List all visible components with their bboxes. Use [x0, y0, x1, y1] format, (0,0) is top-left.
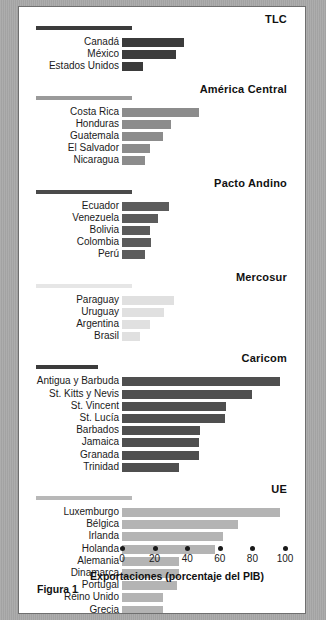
- axis-tick-dot: [185, 546, 190, 551]
- bar-row: St. Kitts y Nevis: [19, 389, 306, 400]
- bar-label: Bélgica: [19, 518, 119, 529]
- bar-row: Bolivia: [19, 225, 306, 236]
- bar-label: Barbados: [19, 424, 119, 435]
- bar-row: Canadá: [19, 37, 306, 48]
- group-header: Pacto Andino: [19, 177, 287, 189]
- bar-label: Irlanda: [19, 530, 119, 541]
- bar-label: Canadá: [19, 36, 119, 47]
- group-rule: [36, 365, 98, 369]
- group-rule: [36, 26, 132, 30]
- bar-label: Uruguay: [19, 306, 119, 317]
- bar: [122, 332, 140, 341]
- bar-row: Guatemala: [19, 131, 306, 142]
- bar: [122, 296, 174, 305]
- bar-row: St. Vincent: [19, 401, 306, 412]
- bar: [122, 520, 238, 529]
- bar: [122, 320, 150, 329]
- group-rule: [36, 96, 132, 100]
- bar-row: Uruguay: [19, 307, 306, 318]
- bar-label: Honduras: [19, 118, 119, 129]
- group-header: Mercosur: [19, 271, 287, 283]
- bar-label: St. Kitts y Nevis: [19, 388, 119, 399]
- bar-label: St. Vincent: [19, 400, 119, 411]
- bar: [122, 120, 171, 129]
- axis-tick-label: 80: [247, 553, 258, 564]
- bar-label: Venezuela: [19, 212, 119, 223]
- bar-label: Nicaragua: [19, 154, 119, 165]
- bar-row: Argentina: [19, 319, 306, 330]
- bar: [122, 202, 169, 211]
- bar-label: Paraguay: [19, 294, 119, 305]
- axis-tick-dot: [120, 546, 125, 551]
- bar-row: Bélgica: [19, 519, 306, 530]
- group-rule: [36, 190, 132, 194]
- bar-label: Antigua y Barbuda: [19, 375, 119, 386]
- bar: [122, 508, 280, 517]
- bar: [122, 532, 223, 541]
- bar: [122, 132, 163, 141]
- axis-tick-dot: [153, 546, 158, 551]
- axis-tick-label: 40: [182, 553, 193, 564]
- bar: [122, 390, 252, 399]
- axis-tick-label: 60: [214, 553, 225, 564]
- bar-row: Jamaica: [19, 437, 306, 448]
- bar-row: México: [19, 49, 306, 60]
- bar: [122, 156, 145, 165]
- bar-label: Argentina: [19, 318, 119, 329]
- group-header: Caricom: [19, 352, 287, 364]
- bar: [122, 438, 199, 447]
- bar-label: Granada: [19, 449, 119, 460]
- bar: [122, 214, 158, 223]
- bar: [122, 38, 184, 47]
- group-header: UE: [19, 483, 287, 495]
- bar-label: Ecuador: [19, 200, 119, 211]
- bar-label: México: [19, 48, 119, 59]
- x-axis: Exportaciones (porcentaje del PIB) 02040…: [19, 546, 306, 606]
- bar-row: Grecia: [19, 605, 306, 614]
- bar: [122, 606, 163, 614]
- group-header: América Central: [19, 83, 287, 95]
- bar: [122, 463, 179, 472]
- bar-row: Estados Unidos: [19, 61, 306, 72]
- bar: [122, 308, 164, 317]
- group-rule: [36, 496, 132, 500]
- bar-label: Costa Rica: [19, 106, 119, 117]
- axis-tick-dot: [283, 546, 288, 551]
- bar: [122, 451, 199, 460]
- bar-row: St. Lucía: [19, 413, 306, 424]
- figure-caption: Figura 1: [37, 583, 78, 595]
- bar-chart: TLCCanadáMéxicoEstados UnidosAmérica Cen…: [19, 7, 306, 567]
- bar-label: Bolivia: [19, 224, 119, 235]
- figure-panel: TLCCanadáMéxicoEstados UnidosAmérica Cen…: [18, 6, 306, 614]
- bar-row: Colombia: [19, 237, 306, 248]
- axis-tick-label: 0: [119, 553, 125, 564]
- x-axis-title: Exportaciones (porcentaje del PIB): [19, 570, 306, 582]
- bar-row: Antigua y Barbuda: [19, 376, 306, 387]
- bar: [122, 226, 150, 235]
- bar-label: Colombia: [19, 236, 119, 247]
- bar-row: Brasil: [19, 331, 306, 342]
- bar: [122, 144, 150, 153]
- bar-label: Guatemala: [19, 130, 119, 141]
- bar: [122, 414, 225, 423]
- bar-label: Trinidad: [19, 461, 119, 472]
- bar: [122, 250, 145, 259]
- bar-row: Barbados: [19, 425, 306, 436]
- bar: [122, 377, 280, 386]
- bar: [122, 50, 176, 59]
- bar-row: Ecuador: [19, 201, 306, 212]
- bar-row: Costa Rica: [19, 107, 306, 118]
- axis-tick-dot: [218, 546, 223, 551]
- bar: [122, 62, 143, 71]
- axis-tick-dot: [250, 546, 255, 551]
- bar-label: Estados Unidos: [19, 60, 119, 71]
- group-header: TLC: [19, 13, 287, 25]
- group-rule: [36, 284, 132, 288]
- bar-row: Nicaragua: [19, 155, 306, 166]
- bar-row: Perú: [19, 249, 306, 260]
- bar-label: El Salvador: [19, 142, 119, 153]
- bar-row: Paraguay: [19, 295, 306, 306]
- bar-row: Venezuela: [19, 213, 306, 224]
- bar-row: Irlanda: [19, 531, 306, 542]
- bar: [122, 402, 226, 411]
